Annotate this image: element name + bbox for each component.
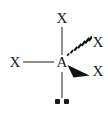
bond-line-top <box>61 27 63 55</box>
central-atom-label: A <box>55 55 69 70</box>
hashed-wedge-bond-icon <box>66 36 92 58</box>
bond-line-left <box>23 61 54 63</box>
lone-pair-dots <box>55 99 71 105</box>
substituent-label-upper-right: X <box>91 35 105 50</box>
substituent-label-lower-right: X <box>91 64 105 79</box>
substituent-label-top: X <box>55 11 69 26</box>
substituent-label-left: X <box>8 55 22 70</box>
bond-line-bottom <box>61 72 63 98</box>
lone-pair-dot-right <box>64 99 69 104</box>
solid-wedge-bond-icon <box>67 64 90 79</box>
lone-pair-dot-left <box>55 99 60 104</box>
chemical-structure-figure: A X X X X <box>0 0 108 114</box>
